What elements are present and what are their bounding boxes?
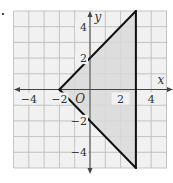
x-axis-label: x — [158, 73, 165, 87]
y-tick-label: −4 — [71, 146, 87, 159]
x-tick-label: 4 — [148, 93, 155, 106]
inequality-graph: −4−22442−2−4Oxy — [0, 0, 173, 183]
y-tick-label: 2 — [80, 52, 87, 65]
y-axis-label: y — [94, 10, 102, 24]
x-tick-label: 2 — [117, 93, 124, 106]
origin-label: O — [75, 92, 85, 106]
x-tick-label: −4 — [21, 93, 37, 106]
y-tick-label: 4 — [80, 21, 87, 34]
x-axis-right-arrow-icon — [167, 87, 173, 92]
y-axis-down-arrow-icon — [88, 168, 93, 174]
y-tick-label: −2 — [71, 115, 87, 128]
x-tick-label: −2 — [51, 93, 67, 106]
